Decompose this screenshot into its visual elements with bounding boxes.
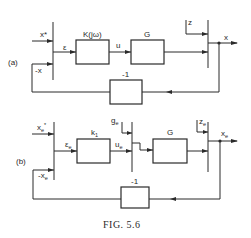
error-signal-label: ε	[63, 43, 67, 52]
arrow-icon	[202, 50, 208, 54]
plant-block	[131, 40, 164, 64]
arrow-icon	[70, 50, 76, 54]
arrow-icon	[127, 131, 132, 135]
arrow-icon	[47, 62, 53, 66]
control-signal-label: ue	[115, 140, 123, 150]
feedback-block-label: -1	[122, 70, 130, 79]
feedback-block-label: -1	[131, 177, 139, 186]
disturbance-label: z	[188, 18, 192, 27]
diagram-b: (b) xe* -xe εe k1 ue ge G	[16, 116, 238, 208]
feedback-input-label: -xe	[38, 171, 48, 181]
arrow-icon	[125, 50, 131, 54]
arrow-icon	[126, 149, 132, 153]
arrow-icon	[231, 139, 238, 143]
disturbance-g-label: ge	[111, 116, 119, 126]
reference-input-label: x*	[40, 30, 47, 39]
arrow-icon	[48, 168, 54, 172]
arrow-icon	[71, 149, 77, 153]
arrow-icon	[147, 148, 153, 152]
summer-output-line	[132, 143, 153, 150]
reference-input-label: xe*	[37, 122, 47, 133]
output-label: x	[224, 33, 228, 42]
block-diagram-figure: (a) x* -x ε K(jω) u G z	[0, 0, 251, 238]
plant-block-label: G	[144, 30, 150, 39]
diagram-b-label: (b)	[16, 157, 26, 166]
arrow-icon	[203, 130, 208, 134]
arrow-icon	[166, 90, 172, 94]
error-signal-label: εe	[65, 140, 72, 150]
diagram-a-label: (a)	[8, 58, 18, 67]
plant-block	[153, 139, 187, 163]
controller-block-label: k1	[91, 128, 98, 138]
arrow-icon	[170, 197, 176, 201]
arrow-icon	[231, 41, 238, 45]
feedback-block	[121, 187, 149, 208]
disturbance-z-label: ze	[199, 117, 206, 127]
figure-caption: FIG. 5.6	[103, 219, 141, 230]
arrow-icon	[202, 149, 208, 153]
controller-block	[77, 139, 110, 163]
arrow-icon	[48, 132, 54, 136]
feedback-block	[110, 80, 142, 104]
controller-block-label: K(jω)	[83, 30, 102, 39]
feedback-input-label: -x	[35, 66, 42, 75]
controller-block	[76, 40, 109, 64]
arrow-icon	[47, 39, 53, 43]
plant-block-label: G	[167, 128, 173, 137]
output-label: xe	[221, 129, 228, 139]
diagram-a: (a) x* -x ε K(jω) u G z	[8, 18, 238, 104]
control-signal-label: u	[116, 41, 120, 50]
arrow-icon	[202, 32, 208, 36]
